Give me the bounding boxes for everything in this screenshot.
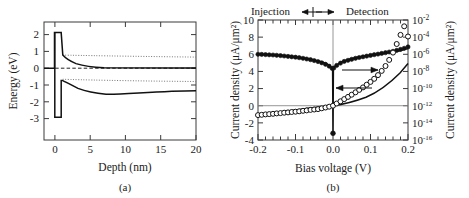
panel-b-lytick-6: -2 [245, 117, 254, 129]
panel-a-y-ticks [44, 35, 196, 119]
panel-b-lytick-0: 10 [243, 14, 255, 26]
panel-b-rytick-6: 10-14 [412, 117, 433, 129]
panel-b-xtick-0: -0.2 [249, 143, 266, 155]
panel-b-header-divider [302, 7, 334, 17]
panel-b-lytick-5: 0 [249, 100, 255, 112]
panel-b-x-axis-label: Bias voltage (V) [295, 162, 371, 175]
panel-a-ytick-2: 0 [34, 62, 40, 74]
panel-b-xtick-4: 0.2 [401, 143, 415, 155]
panel-a: 2 1 0 -1 -2 -3 0 5 10 15 20 Depth (nm) E… [0, 0, 230, 198]
panel-b-x-tick-labels: -0.2 -0.1 0.0 0.1 0.2 [249, 143, 415, 155]
panel-b-left-y-ticks [258, 20, 263, 140]
panel-b-lytick-4: 2 [249, 82, 255, 94]
panel-b-rytick-3: 10-8 [412, 64, 429, 77]
panel-b-rytick-2: 10-6 [412, 47, 429, 60]
panel-b-rytick-0: 10-2 [412, 13, 429, 26]
panel-b-xtick-1: -0.1 [287, 143, 304, 155]
panel-a-ytick-5: -3 [30, 112, 40, 124]
panel-b-arrow-to-right-axis [342, 67, 378, 73]
panel-b-lytick-1: 8 [249, 31, 255, 43]
panel-a-xtick-1: 5 [87, 143, 93, 155]
panel-b: Injection Detection [230, 0, 469, 198]
panel-a-x-axis-label: Depth (nm) [98, 161, 152, 174]
panel-b-right-y-tick-labels: 10-2 10-4 10-6 10-8 10-10 10-12 10-14 10… [412, 13, 433, 146]
panel-b-sublabel: (b) [327, 181, 340, 194]
panel-b-header-detection: Detection [346, 5, 389, 17]
panel-a-ytick-1: 1 [34, 45, 40, 57]
panel-a-conduction-band-solid [44, 33, 196, 69]
panel-a-ytick-4: -2 [30, 96, 39, 108]
panel-a-xtick-2: 10 [120, 143, 132, 155]
panel-a-y-tick-labels: 2 1 0 -1 -2 -3 [30, 28, 40, 124]
panel-b-lytick-2: 6 [249, 48, 255, 60]
panel-b-lytick-3: 4 [249, 65, 255, 77]
panel-b-rytick-5: 10-12 [412, 100, 433, 112]
panel-b-rytick-1: 10-4 [412, 30, 429, 43]
panel-b-rytick-7: 10-16 [412, 134, 433, 146]
panel-a-svg: 2 1 0 -1 -2 -3 0 5 10 15 20 Depth (nm) E… [0, 0, 230, 198]
panel-a-x-tick-labels: 0 5 10 15 20 [52, 143, 202, 155]
panel-a-ytick-3: -1 [30, 79, 39, 91]
panel-b-y-axis-label-right: Current density (μA/μm²) [444, 21, 457, 139]
panel-a-xtick-3: 15 [155, 143, 167, 155]
panel-b-y-axis-label-left: Current density (μA/μm²) [230, 21, 242, 139]
panel-b-header-injection: Injection [251, 5, 291, 17]
panel-b-svg: Injection Detection [230, 0, 469, 198]
panel-a-sublabel: (a) [119, 181, 132, 194]
panel-b-xtick-3: 0.1 [364, 143, 378, 155]
panel-a-valence-reference-dotted [63, 79, 196, 81]
panel-b-xtick-2: 0.0 [326, 143, 340, 155]
panel-a-valence-band-solid [55, 33, 196, 117]
panel-a-ytick-0: 2 [34, 28, 40, 40]
figure-container: 2 1 0 -1 -2 -3 0 5 10 15 20 Depth (nm) E… [0, 0, 469, 198]
panel-a-xtick-4: 20 [191, 143, 203, 155]
panel-a-xtick-0: 0 [52, 143, 58, 155]
panel-b-rytick-4: 10-10 [412, 82, 433, 94]
panel-b-left-y-tick-labels: 10 8 6 4 2 0 -2 -4 [243, 14, 255, 146]
panel-a-y-axis-label: Energy (eV) [7, 52, 20, 109]
panel-a-conduction-reference-dotted [63, 55, 196, 57]
